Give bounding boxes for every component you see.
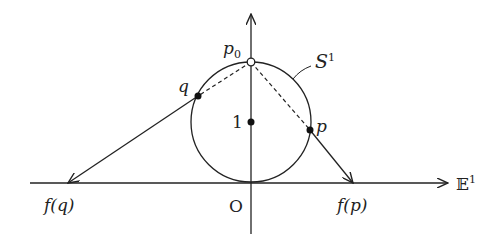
point-q xyxy=(195,93,202,100)
label-origin: O xyxy=(229,198,243,215)
diagram-canvas xyxy=(0,0,500,234)
label-q: q xyxy=(178,78,189,95)
label-p0: p0 xyxy=(223,40,241,60)
label-f-p: f(p) xyxy=(337,197,367,214)
stereographic-projection-diagram: p0 S1 q p 1 O f(q) f(p) 𝔼1 xyxy=(0,0,500,234)
dashed-line-p0-q xyxy=(198,62,251,96)
dashed-line-p0-p xyxy=(251,62,310,130)
label-one: 1 xyxy=(232,114,243,131)
point-one xyxy=(248,119,255,126)
point-p0-open xyxy=(247,58,255,66)
s1-leader-line xyxy=(293,66,311,79)
projection-arrow-q xyxy=(68,96,198,183)
label-f-q: f(q) xyxy=(44,197,74,214)
label-s1: S1 xyxy=(315,52,335,71)
point-p xyxy=(307,127,314,134)
label-p: p xyxy=(316,118,327,135)
projection-arrow-p xyxy=(310,130,353,183)
label-e1: 𝔼1 xyxy=(456,174,476,193)
